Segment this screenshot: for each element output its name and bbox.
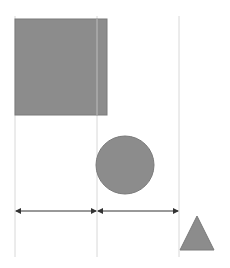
circle-shape	[96, 136, 154, 194]
shapes-group	[15, 19, 214, 250]
square-shape	[15, 19, 107, 115]
spacing-diagram	[0, 0, 230, 268]
diagram-svg	[0, 0, 230, 268]
triangle-shape	[180, 216, 214, 250]
